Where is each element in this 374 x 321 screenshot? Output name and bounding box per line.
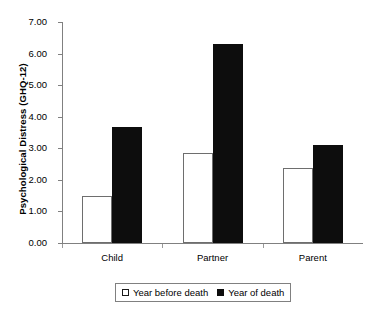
y-axis-tick-label: 0.00 [7,238,47,248]
legend-label: Year of death [228,288,284,298]
legend-entry-2: Year of death [217,288,284,298]
legend-swatch-open-icon [122,289,129,296]
y-axis-tick-label: 5.00 [7,80,47,90]
y-axis-tick [58,22,62,23]
y-axis-tick [58,117,62,118]
bar-parent-series-2 [313,145,343,243]
bar-child-series-1 [82,196,112,243]
bar-chart-figure: Psychological Distress (GHQ-12) 7.006.00… [0,0,374,321]
x-axis-separator-tick [162,244,163,248]
legend-swatch-filled-icon [217,289,224,296]
bar-child-series-2 [112,127,142,243]
bar-parent-series-1 [283,168,313,243]
x-axis-separator-tick [263,244,264,248]
y-axis-tick [58,85,62,86]
x-axis-category-label-partner: Partner [163,252,263,263]
bar-partner-series-2 [213,44,243,243]
y-axis-tick [58,180,62,181]
y-axis-tick-label: 6.00 [7,49,47,59]
plot-area: 7.006.005.004.003.002.001.000.00ChildPar… [62,22,363,243]
x-axis-line [62,243,363,244]
y-axis-tick-label: 3.00 [7,143,47,153]
bar-partner-series-1 [183,153,213,243]
y-axis-tick [58,148,62,149]
chart-legend: Year before deathYear of death [115,283,291,302]
x-axis-category-label-parent: Parent [263,252,363,263]
legend-label: Year before death [133,288,208,298]
x-axis-separator-tick [62,244,63,248]
legend-entry-1: Year before death [122,288,208,298]
y-axis-tick-label: 7.00 [7,17,47,27]
y-axis-tick-label: 4.00 [7,112,47,122]
y-axis-tick [58,54,62,55]
y-axis-tick-label: 1.00 [7,206,47,216]
y-axis-tick [58,211,62,212]
y-axis-tick-label: 2.00 [7,175,47,185]
y-axis-line [62,22,63,244]
x-axis-category-label-child: Child [62,252,162,263]
